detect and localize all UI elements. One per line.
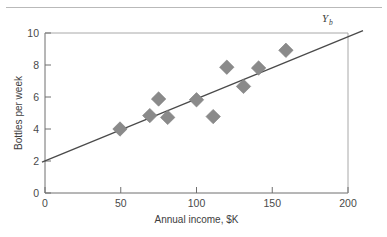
plot-frame — [45, 33, 348, 193]
scatter-plot: 10 8 6 4 2 0 0 50 100 150 200 Annual inc… — [0, 0, 387, 237]
x-tick-label-200: 200 — [339, 197, 357, 209]
regression-line — [42, 31, 363, 163]
data-point-marker — [113, 122, 127, 136]
data-point-marker — [279, 43, 293, 57]
data-point-marker — [251, 61, 265, 75]
x-tick-label-100: 100 — [188, 197, 206, 209]
x-axis-ticks — [45, 187, 348, 193]
y-tick-label-0: 0 — [33, 187, 39, 199]
data-point-marker — [220, 60, 234, 74]
data-point-marker — [189, 93, 203, 107]
y-tick-label-10: 10 — [27, 27, 39, 39]
data-point-marker — [151, 92, 165, 106]
chart-figure: 10 8 6 4 2 0 0 50 100 150 200 Annual inc… — [0, 0, 387, 237]
y-tick-label-6: 6 — [33, 91, 39, 103]
y-tick-label-2: 2 — [33, 155, 39, 167]
regression-line-label-subscript: b — [329, 18, 333, 27]
x-tick-label-0: 0 — [42, 197, 48, 209]
x-tick-label-50: 50 — [115, 197, 127, 209]
y-tick-label-4: 4 — [33, 123, 39, 135]
y-axis-ticks — [45, 33, 51, 193]
data-point-marker — [206, 109, 220, 123]
y-tick-label-8: 8 — [33, 59, 39, 71]
x-tick-label-150: 150 — [263, 197, 281, 209]
x-axis-title: Annual income, $K — [155, 214, 239, 225]
y-axis-title: Bottles per week — [13, 75, 24, 150]
